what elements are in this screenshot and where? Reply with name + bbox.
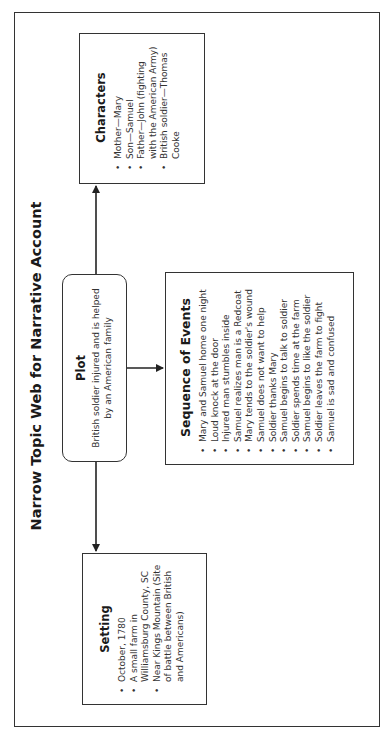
list-item: Loud knock at the door [210, 281, 222, 454]
characters-heading: Characters [94, 44, 108, 171]
plot-text: British soldier injured and is helped by… [91, 283, 114, 453]
list-item: Injured man stumbles inside [221, 281, 233, 454]
setting-list: October, 1780 A small farm in Williamsbu… [117, 564, 186, 694]
characters-box: Characters Mother—Mary Son—Samuel Father… [79, 33, 205, 184]
plot-box: Plot British soldier injured and is help… [62, 274, 127, 462]
list-item: Son—Samuel [125, 44, 137, 171]
characters-list: Mother—Mary Son—Samuel Father—John (figh… [113, 44, 182, 171]
plot-heading: Plot [74, 283, 88, 453]
list-item: Mother—Mary [113, 44, 125, 171]
sequence-list: Mary and Samuel home one night Loud knoc… [198, 281, 337, 454]
list-item: Samuel does not want to help [256, 281, 268, 454]
list-item: Soldier spends time at the farm [291, 281, 303, 454]
setting-heading: Setting [98, 564, 112, 694]
list-item: Mary and Samuel home one night [198, 281, 210, 454]
list-item: Samuel is sad and confused [326, 281, 338, 454]
list-item: A small farm in Williamsburg County, SC [129, 564, 152, 694]
rotated-page: Narrow Topic Web for Narrative Account S… [0, 0, 386, 741]
list-item: Samuel begins to like the soldier [302, 281, 314, 454]
sequence-heading: Sequence of Events [178, 281, 193, 454]
list-item: Soldier thanks Mary [268, 281, 280, 454]
list-item: Near Kings Mountain (Site of battle betw… [152, 564, 187, 694]
sequence-box: Sequence of Events Mary and Samuel home … [165, 272, 354, 465]
list-item: British soldier—Thomas Cooke [159, 44, 182, 171]
list-item: Samuel begins to talk to soldier [279, 281, 291, 454]
list-item: Father—John (fighting with the American … [136, 44, 159, 171]
setting-box: Setting October, 1780 A small farm in Wi… [82, 553, 207, 705]
list-item: October, 1780 [117, 564, 129, 694]
list-item: Mary tends to the soldier's wound [244, 281, 256, 454]
list-item: Samuel realizes man is a Redcoat [233, 281, 245, 454]
list-item: Soldier leaves the farm to fight [314, 281, 326, 454]
